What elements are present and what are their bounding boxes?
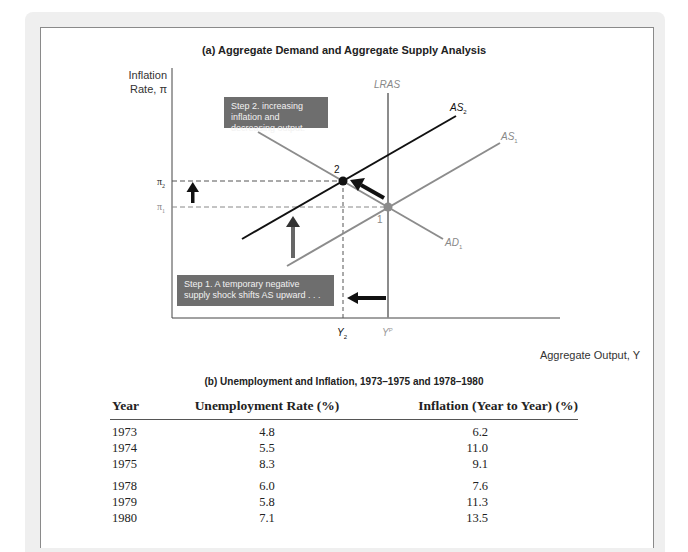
yp-tick-label: YP [382,327,393,338]
equilibrium-point-1 [384,203,393,212]
table-row: 1979 5.8 11.3 [110,494,578,510]
point-2-label: 2 [334,164,340,175]
cell-unemployment: 6.0 [192,472,342,494]
ad1-label: AD1 [444,237,463,250]
pi1-tick-label: π1 [157,201,165,214]
step-1-callout: Step 1. A temporary negative supply shoc… [177,275,334,306]
pi2-tick-label: π2 [157,176,165,189]
ad1-curve [258,132,443,239]
panel-b-title: (b) Unemployment and Inflation, 1973–197… [0,376,688,387]
as-shift-up-arrow-icon [286,216,300,258]
as1-curve [287,143,500,266]
cell-unemployment: 8.3 [192,456,342,472]
table-row: 1974 5.5 11.0 [110,440,578,456]
point-1-label: 1 [377,214,383,225]
as2-curve [242,116,456,239]
table-row: 1975 8.3 9.1 [110,456,578,472]
lras-label: LRAS [374,79,400,90]
cell-inflation: 11.3 [342,494,578,510]
cell-unemployment: 5.8 [192,494,342,510]
x-axis-label: Aggregate Output, Y [440,349,640,361]
unemployment-inflation-table: Year Unemployment Rate (%) Inflation (Ye… [110,396,578,526]
table-row: 1980 7.1 13.5 [110,510,578,526]
table-row: 1973 4.8 6.2 [110,424,578,440]
equilibrium-point-2 [339,177,348,186]
cell-year: 1973 [110,424,192,440]
step-2-callout: Step 2. increasing inflation and decreas… [224,97,328,128]
table-header-row: Year Unemployment Rate (%) Inflation (Ye… [110,396,578,420]
cell-inflation: 11.0 [342,440,578,456]
cell-year: 1974 [110,440,192,456]
cell-year: 1978 [110,472,192,494]
cell-inflation: 7.6 [342,472,578,494]
cell-inflation: 9.1 [342,456,578,472]
cell-unemployment: 7.1 [192,510,342,526]
as2-label: AS2 [449,102,467,115]
cell-inflation: 6.2 [342,424,578,440]
header-inflation: Inflation (Year to Year) (%) [342,396,578,420]
header-unemployment: Unemployment Rate (%) [192,396,342,420]
cell-year: 1975 [110,456,192,472]
output-decrease-arrow-icon [347,292,386,304]
cell-unemployment: 5.5 [192,440,342,456]
cell-year: 1980 [110,510,192,526]
cell-year: 1979 [110,494,192,510]
pi-up-arrow-icon [187,182,200,203]
y2-tick-label: Y2 [337,327,348,340]
header-year: Year [110,396,192,420]
as1-label: AS1 [500,131,518,144]
cell-unemployment: 4.8 [192,424,342,440]
table-row: 1978 6.0 7.6 [110,472,578,494]
cell-inflation: 13.5 [342,510,578,526]
